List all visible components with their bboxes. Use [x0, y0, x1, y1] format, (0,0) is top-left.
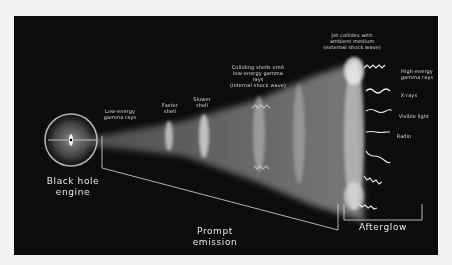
label-line: low-energy gamma rays [228, 70, 288, 82]
label-afterglow: Afterglow [348, 222, 418, 233]
label-line: (external shock wave) [320, 44, 384, 50]
label-line: shell [190, 102, 214, 108]
label-xrays: X-rays [394, 92, 424, 98]
label-line: (internal shock wave) [228, 82, 288, 88]
label-prompt-emission: Prompt emission [180, 226, 250, 248]
jet-cone [76, 61, 364, 221]
label-line: Prompt [180, 226, 250, 237]
black-hole-engine-graphic [43, 112, 99, 168]
label-low-energy-gamma-rays: Low-energy gamma rays [100, 108, 140, 120]
label-faster-shell: Faster shell [158, 102, 182, 114]
label-line: gamma rays [398, 74, 436, 80]
diagram-graphics [14, 16, 438, 255]
label-black-hole-engine: Black hole engine [38, 176, 108, 198]
label-line: shell [158, 108, 182, 114]
label-line: gamma rays [100, 114, 140, 120]
label-colliding-shells: Colliding shells emit low-energy gamma r… [228, 64, 288, 88]
label-line: engine [38, 187, 108, 198]
label-radio: Radio [392, 133, 416, 139]
label-high-energy-gamma-rays: High-energy gamma rays [398, 68, 436, 80]
label-slower-shell: Slower shell [190, 96, 214, 108]
label-line: emission [180, 237, 250, 248]
label-line: Black hole [38, 176, 108, 187]
label-jet-collides: Jet collides with ambient medium (extern… [320, 32, 384, 50]
label-visible-light: Visible light [394, 113, 434, 119]
gamma-ray-burst-diagram: Low-energy gamma rays Faster shell Slowe… [14, 16, 438, 255]
